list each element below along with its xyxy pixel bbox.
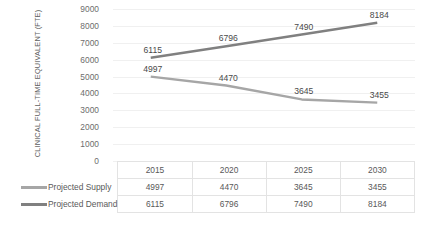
table-header-year: 2025 <box>266 162 340 179</box>
legend-item-supply[interactable]: Projected Supply <box>17 179 118 196</box>
data-table: 2015202020252030Projected Supply49974470… <box>17 161 415 213</box>
table-header-year: 2015 <box>118 162 192 179</box>
y-axis-tick-label: 2000 <box>39 122 99 132</box>
data-point-label: 4470 <box>219 73 238 83</box>
legend-line-icon <box>21 203 47 206</box>
table-row: 2015202020252030 <box>17 162 415 179</box>
legend-line-icon <box>21 186 47 189</box>
legend-item-demand[interactable]: Projected Demand <box>17 196 118 213</box>
table-row: Projected Supply4997447036453455 <box>17 179 415 196</box>
legend-label: Projected Supply <box>48 182 111 192</box>
legend-label: Projected Demand <box>48 199 117 209</box>
y-axis-tick-label: 6000 <box>39 55 99 65</box>
table-cell-value: 7490 <box>266 196 340 213</box>
table-cell-value: 6796 <box>192 196 266 213</box>
data-point-label: 4997 <box>143 64 162 74</box>
data-point-label: 6796 <box>219 33 238 43</box>
y-axis-tick-label: 7000 <box>39 38 99 48</box>
table-cell-value: 8184 <box>340 196 414 213</box>
y-axis-tick-label: 3000 <box>39 105 99 115</box>
data-point-label: 6115 <box>144 45 162 55</box>
table-row: Projected Demand6115679674908184 <box>17 196 415 213</box>
table-corner-cell <box>17 162 118 179</box>
table-cell-value: 6115 <box>118 196 192 213</box>
series-line <box>151 77 378 103</box>
y-axis-tick-label: 5000 <box>39 72 99 82</box>
table-cell-value: 4997 <box>118 179 192 196</box>
line-chart: CLINICAL FULL-TIME EQUIVALENT (FTE) 9000… <box>0 0 423 233</box>
y-axis-tick-label: 4000 <box>39 88 99 98</box>
data-point-label: 8184 <box>370 10 389 20</box>
y-axis-tick-label: 9000 <box>39 4 99 14</box>
series-lines <box>113 9 415 161</box>
data-point-label: 3645 <box>294 86 313 96</box>
table-cell-value: 3455 <box>340 179 414 196</box>
data-point-label: 3455 <box>370 90 389 100</box>
table-header-year: 2020 <box>192 162 266 179</box>
table-header-year: 2030 <box>340 162 414 179</box>
table-cell-value: 3645 <box>266 179 340 196</box>
plot-area: 9000800070006000500040003000200010000 49… <box>113 9 415 161</box>
y-axis-tick-label: 1000 <box>39 139 99 149</box>
table-cell-value: 4470 <box>192 179 266 196</box>
series-line <box>151 23 378 58</box>
y-axis-tick-label: 8000 <box>39 21 99 31</box>
data-point-label: 7490 <box>294 22 313 32</box>
